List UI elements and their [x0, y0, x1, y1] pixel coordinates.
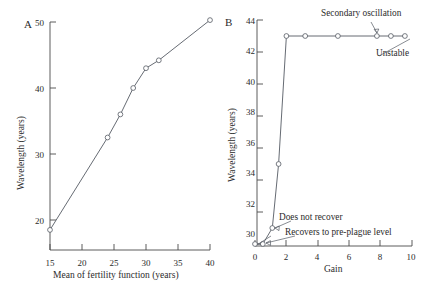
panel-b-plot — [219, 0, 439, 291]
panel-a-data-markers — [48, 18, 213, 233]
panel-a-plot — [0, 0, 219, 291]
panel-a: A 50 40 30 20 15 20 25 30 35 40 Mean of … — [0, 0, 219, 291]
panel-b: B 44 42 40 38 36 34 32 30 0 2 4 6 8 10 G… — [219, 0, 439, 291]
panel-b-data-markers — [253, 34, 408, 247]
figure-container: A 50 40 30 20 15 20 25 30 35 40 Mean of … — [0, 0, 439, 291]
